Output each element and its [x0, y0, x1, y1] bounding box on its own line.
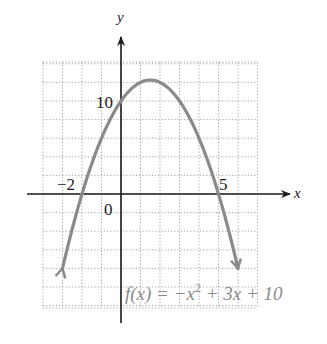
- parabola-chart: y x 10 −2 5 0 f(x) = −x2 + 3x + 10: [0, 0, 327, 344]
- tick-label-x-neg2: −2: [57, 175, 75, 194]
- y-axis-label: y: [115, 9, 124, 25]
- function-label: f(x) = −x2 + 3x + 10: [125, 281, 283, 305]
- origin-label: 0: [104, 200, 113, 219]
- function-label-rhs: + 3x + 10: [201, 283, 283, 304]
- function-label-lhs: f(x) = −x: [125, 283, 196, 305]
- parabola-curve: [63, 80, 239, 268]
- tick-label-x-5: 5: [219, 175, 228, 194]
- x-axis-label: x: [293, 185, 301, 201]
- tick-label-y-10: 10: [96, 93, 113, 112]
